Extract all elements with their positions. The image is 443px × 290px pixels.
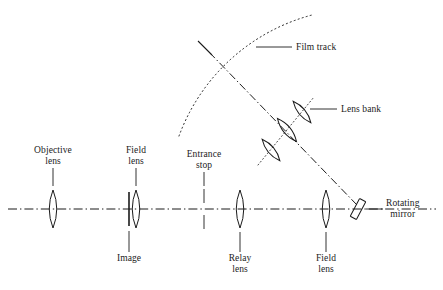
rotating-mirror-label: Rotating mirror (386, 198, 420, 220)
lens-bank-label: Lens bank (341, 104, 381, 115)
relay-lens-label-line1: Relay (229, 253, 252, 264)
objective-lens-label-line2: lens (34, 156, 72, 167)
field-lens-2 (322, 190, 330, 252)
rotating-mirror-label-line2: mirror (386, 209, 420, 220)
image-label: Image (117, 253, 141, 264)
lens-bank (258, 97, 337, 165)
field-lens-bottom-label-line1: Field (316, 253, 336, 264)
film-track-label-line1: Film track (296, 42, 336, 53)
image-label-line1: Image (117, 253, 141, 264)
objective-lens (49, 168, 57, 228)
reflected-ray-extension (198, 41, 212, 55)
film-track (179, 15, 312, 136)
field-lens-bottom-label-line2: lens (316, 264, 336, 275)
film-track-arc (179, 15, 312, 136)
objective-lens-label-line1: Objective (34, 145, 72, 156)
entrance-stop-label-line2: stop (187, 160, 222, 171)
field-lens-top-label-line2: lens (126, 156, 146, 167)
reflected-ray (209, 52, 357, 205)
field-lens-1 (132, 168, 140, 228)
rotating-mirror-label-line1: Rotating (386, 198, 420, 209)
field-lens-top-label: Field lens (126, 145, 146, 167)
objective-lens-label: Objective lens (34, 145, 72, 167)
figure-canvas: Objective lens Field lens Entrance stop … (0, 0, 443, 290)
entrance-stop-label: Entrance stop (187, 149, 222, 171)
lens-bank-label-line1: Lens bank (341, 104, 381, 115)
relay-lens-label: Relay lens (229, 253, 252, 275)
lens-bank-axis (258, 97, 314, 165)
relay-lens-label-line2: lens (229, 264, 252, 275)
field-lens-top-label-line1: Field (126, 145, 146, 156)
entrance-stop-label-line1: Entrance (187, 149, 222, 160)
reflected-ray-group (198, 41, 357, 205)
relay-lens (236, 190, 244, 252)
film-track-label: Film track (296, 42, 336, 53)
field-lens-bottom-label: Field lens (316, 253, 336, 275)
